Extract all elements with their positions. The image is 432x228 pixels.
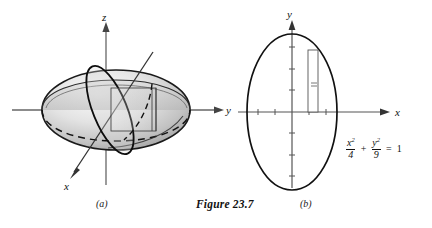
strip-element [308,50,318,112]
axis-label-y: y [225,104,231,116]
equals-sign: = [385,143,393,154]
plus-sign: + [360,143,368,154]
panel-a-ellipsoid-3d: z y x [0,0,232,228]
axis-label-x: x [394,106,400,118]
panel-b-caption: (b) [300,198,312,209]
numerator-y-squared: y2 [370,137,382,149]
axis-label-z: z [101,11,107,23]
panel-a-caption: (a) [96,198,108,209]
axis-label-y: y [286,8,292,20]
ellipse-equation: x2 4 + y2 9 = 1 [345,137,403,160]
ellipsoid-3d-svg: z y x [0,0,232,198]
numerator-x-squared: x2 [345,137,357,149]
equation-rhs: 1 [396,143,403,154]
fraction-x-squared-over-4: x2 4 [345,137,357,160]
axis-y [289,20,296,188]
denominator-4: 4 [346,149,355,160]
panel-b-ellipse-2d: y x [232,0,432,228]
figure-caption: Figure 23.7 [196,198,254,210]
axis-label-x: x [63,180,69,192]
ellipse-2d-svg: y x [232,0,432,198]
slab-element [111,88,156,131]
fraction-y-squared-over-9: y2 9 [370,137,382,160]
figure-23-7: z y x [0,0,432,228]
denominator-9: 9 [372,149,381,160]
